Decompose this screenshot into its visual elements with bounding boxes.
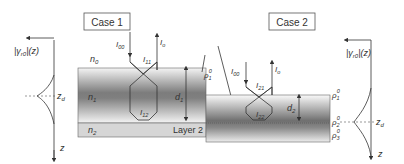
case2-title: Case 2 — [276, 17, 308, 28]
case1-title: Case 1 — [91, 17, 123, 28]
svg-text:Io: Io — [275, 65, 280, 75]
case2-title-box: Case 2 — [269, 13, 315, 30]
svg-text:I21: I21 — [256, 81, 264, 91]
svg-text:ρ30: ρ30 — [331, 128, 341, 141]
layer2-label: Layer 2 — [173, 125, 203, 135]
svg-text:Io: Io — [160, 38, 165, 48]
gaussian-curve-1 — [37, 75, 54, 124]
diagram: Case 1 |γr0|(z) zd z n0 n1 n2 Layer 2 I0… — [0, 0, 404, 164]
svg-text:n0: n0 — [90, 54, 99, 65]
svg-text:zd: zd — [56, 91, 66, 102]
svg-text:|γr0|(z): |γr0|(z) — [346, 48, 371, 59]
svg-text:I00: I00 — [231, 67, 240, 77]
svg-text:z: z — [377, 149, 383, 159]
svg-text:ρ10: ρ10 — [331, 88, 341, 101]
case1-title-box: Case 1 — [84, 13, 130, 30]
svg-text:zd: zd — [375, 117, 385, 128]
break-line — [218, 46, 232, 100]
svg-text:I11: I11 — [143, 55, 151, 65]
svg-text:z: z — [59, 143, 65, 153]
case2-slab — [206, 95, 330, 142]
svg-text:ρ20: ρ20 — [331, 115, 341, 128]
case2-profile: |γr0|(z) zd z — [340, 40, 385, 159]
svg-text:|γr0|(z): |γr0|(z) — [14, 46, 39, 57]
case1-profile: |γr0|(z) zd z — [14, 38, 66, 160]
svg-text:I00: I00 — [116, 40, 125, 50]
